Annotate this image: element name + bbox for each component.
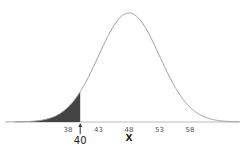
density-curve <box>5 13 240 122</box>
tick-label-58: 58 <box>186 126 195 134</box>
tick-label-43: 43 <box>94 126 103 134</box>
x-axis-label: X <box>126 133 133 143</box>
normal-distribution-chart: 3843485358 40 X <box>0 0 248 154</box>
arrow-up-icon <box>78 123 82 127</box>
tick-label-38: 38 <box>64 126 73 134</box>
tick-label-53: 53 <box>155 126 164 134</box>
marker-label: 40 <box>74 135 87 146</box>
